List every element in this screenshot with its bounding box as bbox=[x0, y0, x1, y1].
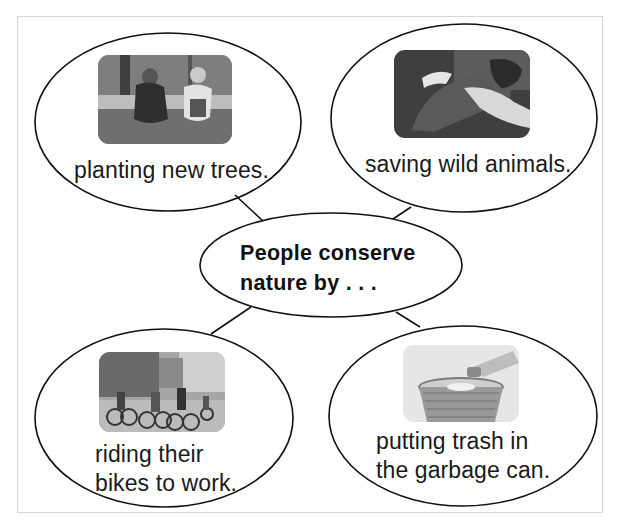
node-label-bottom-left-line-1: riding their bbox=[95, 440, 204, 469]
node-label-top-left: planting new trees. bbox=[74, 156, 269, 185]
hands-holding-sea-turtle-photo bbox=[394, 50, 530, 138]
node-label-top-right: saving wild animals. bbox=[365, 150, 572, 179]
center-label-line-1: People conserve bbox=[240, 238, 415, 268]
node-label-bottom-left-line-2: bikes to work. bbox=[95, 469, 237, 498]
people-riding-bikes-in-city-photo bbox=[99, 352, 225, 432]
center-label-line-2: nature by . . . bbox=[240, 268, 377, 298]
connector-bottom-left bbox=[211, 307, 251, 334]
connector-bottom-right bbox=[396, 312, 420, 327]
node-label-bottom-right-line-1: putting trash in bbox=[376, 427, 528, 456]
hand-dropping-trash-in-wastebasket-photo bbox=[403, 345, 519, 422]
connector-top-left bbox=[235, 195, 263, 221]
children-planting-trees-photo bbox=[98, 55, 232, 144]
node-label-bottom-right-line-2: the garbage can. bbox=[376, 456, 550, 485]
